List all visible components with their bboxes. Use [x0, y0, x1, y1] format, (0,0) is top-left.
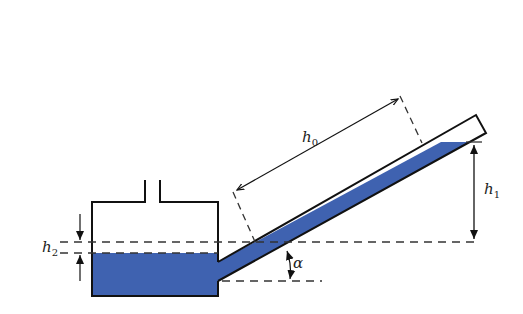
alpha-arc — [287, 251, 291, 279]
diagram-svg — [0, 0, 523, 314]
h0-ext-left — [233, 192, 256, 244]
alpha-label: α — [293, 254, 303, 272]
h0-label: h0 — [302, 128, 318, 148]
manometer-diagram: h0 h1 h2 α — [0, 0, 523, 314]
h2-label: h2 — [42, 238, 58, 258]
h1-label: h1 — [484, 180, 500, 200]
tank-liquid — [93, 253, 218, 296]
h0-ext-right — [400, 96, 422, 143]
